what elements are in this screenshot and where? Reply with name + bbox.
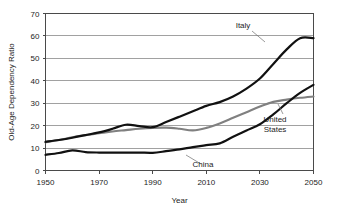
- chart-container: 010203040506070 195019701990201020302050…: [0, 0, 337, 221]
- x-tick-label-2050: 2050: [305, 178, 323, 187]
- y-tick-label-70: 70: [31, 10, 40, 19]
- y-tick-label-60: 60: [31, 32, 40, 41]
- x-axis-tick-labels: 195019701990201020302050: [37, 178, 323, 187]
- y-tick-label-30: 30: [31, 99, 40, 108]
- y-tick-label-40: 40: [31, 77, 40, 86]
- x-tick-label-2030: 2030: [251, 178, 269, 187]
- leader-line-italy: [252, 31, 265, 42]
- series-label-line: States: [264, 125, 287, 134]
- y-tick-label-0: 0: [35, 167, 40, 176]
- y-axis-title: Old-Age Dependency Ratio: [7, 43, 16, 141]
- x-tick-label-1970: 1970: [90, 178, 108, 187]
- series-label-line: Italy: [236, 21, 251, 30]
- old-age-dependency-ratio-line-chart: 010203040506070 195019701990201020302050…: [0, 0, 337, 221]
- x-tick-label-2010: 2010: [197, 178, 215, 187]
- series-label-united-states: UnitedStates: [263, 115, 286, 134]
- series-label-line: China: [193, 160, 214, 169]
- x-tick-label-1990: 1990: [144, 178, 162, 187]
- series-label-line: United: [263, 115, 286, 124]
- y-tick-label-20: 20: [31, 122, 40, 131]
- x-tick-label-1950: 1950: [37, 178, 55, 187]
- x-axis-title: Year: [171, 196, 188, 205]
- series-label-italy: Italy: [236, 21, 251, 30]
- y-tick-label-50: 50: [31, 54, 40, 63]
- data-series: [46, 37, 314, 154]
- y-axis-tick-labels: 010203040506070: [31, 10, 40, 176]
- series-label-china: China: [193, 160, 214, 169]
- y-tick-label-10: 10: [31, 144, 40, 153]
